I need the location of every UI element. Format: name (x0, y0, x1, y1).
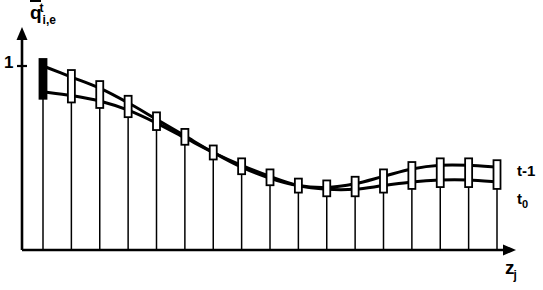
interval-marker (352, 177, 359, 197)
curve-label-t-minus-1: t-1 (517, 162, 535, 179)
x-axis-label: zj (505, 258, 517, 281)
y-axis-label-subscript: i,e (43, 13, 56, 27)
curve-label-t0-subscript: 0 (522, 198, 528, 210)
y-axis-arrowhead (17, 27, 28, 40)
scientific-figure (0, 0, 543, 290)
y-axis-label-symbol: q (30, 2, 42, 23)
interval-marker (125, 96, 132, 117)
y-axis-label: qti,e (30, 2, 56, 26)
interval-marker (380, 169, 387, 192)
interval-marker (295, 179, 302, 193)
interval-marker (181, 129, 188, 145)
interval-marker (40, 59, 47, 99)
interval-marker (267, 169, 274, 185)
interval-marker (323, 180, 330, 196)
interval-marker (465, 158, 472, 187)
x-axis-label-subscript: j (514, 268, 517, 282)
axes (17, 27, 517, 256)
stem-group (43, 70, 497, 250)
marker-group (40, 59, 501, 196)
interval-marker (494, 160, 501, 189)
interval-marker (210, 145, 217, 159)
interval-marker (153, 112, 160, 130)
interval-marker (437, 158, 444, 187)
y-axis-tick-label-1: 1 (4, 54, 13, 71)
interval-marker (408, 162, 415, 189)
curve-label-t0: t0 (517, 190, 528, 210)
x-axis-arrowhead (503, 245, 516, 256)
interval-marker (238, 158, 245, 174)
interval-marker (68, 70, 75, 102)
interval-marker (96, 81, 103, 108)
